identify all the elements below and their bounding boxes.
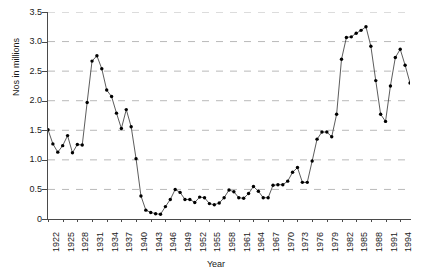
x-tick-mark [400, 219, 401, 222]
y-tick-mark [42, 160, 47, 161]
y-tick-mark [42, 42, 47, 43]
y-tick-mark [42, 71, 47, 72]
x-tick-label: 1979 [331, 232, 340, 252]
x-tick-mark [224, 219, 225, 222]
x-tick-mark [63, 219, 64, 222]
y-tick-mark [42, 189, 47, 190]
x-tick-mark [77, 219, 78, 222]
y-tick-label: 3.0 [16, 37, 42, 46]
x-tick-label: 1931 [96, 232, 105, 252]
x-tick-mark [342, 219, 343, 222]
x-tick-mark [121, 219, 122, 222]
x-tick-mark [283, 219, 284, 222]
y-tick-mark [42, 12, 47, 13]
x-tick-mark [239, 219, 240, 222]
x-tick-mark [386, 219, 387, 222]
y-tick-label: 2.5 [16, 67, 42, 76]
data-series-layer [48, 12, 410, 219]
y-tick-label: 2.0 [16, 96, 42, 105]
x-tick-label: 1943 [155, 232, 164, 252]
x-tick-mark [92, 219, 93, 222]
x-tick-label: 1976 [316, 232, 325, 252]
x-tick-label: 1952 [199, 232, 208, 252]
x-tick-mark [165, 219, 166, 222]
x-tick-mark [107, 219, 108, 222]
x-tick-label: 1994 [404, 232, 413, 252]
y-tick-label: 3.5 [16, 8, 42, 17]
x-tick-mark [136, 219, 137, 222]
x-axis-title: Year [0, 259, 432, 269]
x-tick-mark [371, 219, 372, 222]
y-tick-mark [42, 130, 47, 131]
x-tick-label: 1949 [184, 232, 193, 252]
x-tick-mark [180, 219, 181, 222]
y-tick-label: 1.5 [16, 126, 42, 135]
x-tick-label: 1967 [272, 232, 281, 252]
x-tick-mark [209, 219, 210, 222]
x-tick-mark [312, 219, 313, 222]
x-tick-label: 1985 [360, 232, 369, 252]
x-tick-mark [327, 219, 328, 222]
x-tick-label: 1973 [301, 232, 310, 252]
x-tick-label: 1940 [140, 232, 149, 252]
y-tick-mark [42, 101, 47, 102]
plot-area [48, 12, 410, 219]
x-tick-label: 1961 [243, 232, 252, 252]
x-tick-label: 1937 [125, 232, 134, 252]
line-chart: Nos in millions 3.53.02.52.01.51.00.50 1… [0, 0, 432, 276]
y-tick-mark [42, 219, 47, 220]
x-axis-tick-labels: 1922192519281931193419371940194319461949… [0, 222, 432, 256]
x-tick-label: 1946 [169, 232, 178, 252]
x-tick-mark [48, 219, 49, 222]
x-tick-label: 1928 [81, 232, 90, 252]
y-tick-label: 0.5 [16, 185, 42, 194]
x-tick-label: 1982 [346, 232, 355, 252]
x-tick-mark [253, 219, 254, 222]
x-tick-mark [195, 219, 196, 222]
x-tick-label: 1970 [287, 232, 296, 252]
x-tick-label: 1988 [375, 232, 384, 252]
x-tick-label: 1925 [67, 232, 76, 252]
x-tick-label: 1955 [213, 232, 222, 252]
clipped-chart-title [0, 0, 432, 1]
x-tick-mark [356, 219, 357, 222]
x-tick-label: 1934 [111, 232, 120, 252]
x-tick-label: 1958 [228, 232, 237, 252]
x-tick-mark [151, 219, 152, 222]
x-tick-label: 1922 [52, 232, 61, 252]
x-tick-label: 1991 [390, 232, 399, 252]
x-tick-mark [268, 219, 269, 222]
x-tick-label: 1964 [257, 232, 266, 252]
x-tick-mark [297, 219, 298, 222]
y-tick-label: 1.0 [16, 155, 42, 164]
